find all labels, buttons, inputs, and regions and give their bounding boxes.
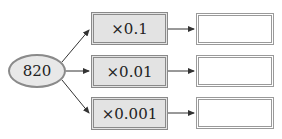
operation-box-3: ×0.001 bbox=[91, 97, 168, 130]
answer-box-2[interactable] bbox=[196, 55, 274, 87]
operation-label: ×0.01 bbox=[107, 63, 153, 81]
answer-box-3[interactable] bbox=[196, 97, 274, 129]
operation-label: ×0.001 bbox=[102, 105, 158, 123]
start-value: 820 bbox=[23, 62, 52, 80]
operation-box-2: ×0.01 bbox=[91, 55, 168, 88]
answer-box-1[interactable] bbox=[196, 13, 274, 45]
start-value-ellipse: 820 bbox=[8, 54, 66, 88]
operation-label: ×0.1 bbox=[111, 20, 147, 38]
operation-box-1: ×0.1 bbox=[91, 12, 168, 45]
